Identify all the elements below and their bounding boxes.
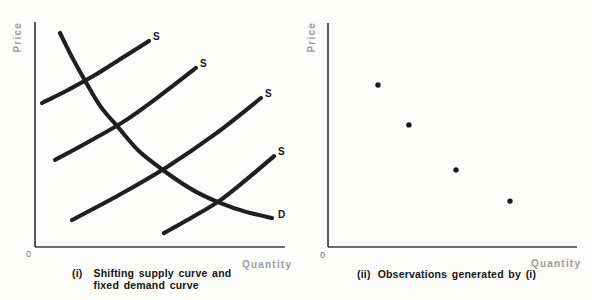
- curve-label-S: S: [200, 58, 207, 69]
- panel-i-caption-prefix: (i): [72, 268, 83, 280]
- observation-dot: [507, 198, 512, 203]
- panel-ii-caption: (ii) Observations generated by (i): [357, 269, 536, 281]
- panel-ii-quantity-axis-label: Quantity: [531, 258, 581, 269]
- supply-curve-2: [55, 68, 196, 160]
- panel-ii-caption-prefix: (ii): [357, 269, 371, 281]
- observation-dot: [375, 82, 380, 87]
- panel-i-caption-line1: Shifting supply curve and: [94, 268, 232, 280]
- figure-canvas: DSSSS: [0, 0, 592, 300]
- figure-container: DSSSS Price Quantity 0 (i) Shifting supp…: [0, 0, 592, 300]
- curve-label-S: S: [265, 88, 272, 99]
- supply-curve-4: [164, 156, 274, 233]
- supply-curve-3: [72, 98, 261, 220]
- panel-i-quantity-axis-label: Quantity: [242, 259, 292, 270]
- demand-curve: [60, 33, 272, 218]
- panel-ii-origin-label: 0: [320, 250, 325, 260]
- panel-i-price-axis-label: Price: [12, 23, 23, 53]
- supply-curve-1: [42, 41, 149, 103]
- panel-i-caption: (i) Shifting supply curve and fixed dema…: [72, 268, 231, 291]
- observation-dot: [406, 122, 411, 127]
- panel-ii-caption-line1: Observations generated by (i): [378, 269, 537, 281]
- curve-label-S: S: [278, 146, 285, 157]
- panel-ii-price-axis-label: Price: [306, 23, 317, 53]
- observation-dot: [453, 167, 458, 172]
- panel-i-origin-label: 0: [26, 249, 31, 259]
- panel-i-caption-line2: fixed demand curve: [94, 280, 232, 292]
- curve-label-S: S: [153, 31, 160, 42]
- curve-label-D: D: [278, 209, 285, 220]
